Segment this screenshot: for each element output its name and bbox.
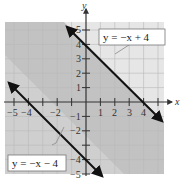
y-tick-label: −5 (70, 169, 81, 180)
coordinate-plane: x y −5 −4 −2 1 2 3 4 5 4 3 2 1 −1 −2 −4 … (0, 0, 187, 188)
x-tick-label: −2 (50, 107, 61, 118)
y-tick-label: 1 (76, 82, 81, 93)
x-axis-label: x (174, 96, 180, 107)
x-tick-label: −5 (7, 107, 18, 118)
x-tick-label: 3 (127, 107, 132, 118)
x-tick-label: 2 (112, 107, 117, 118)
y-tick-label: 2 (76, 68, 81, 79)
y-tick-label: −1 (70, 111, 81, 122)
y-tick-label: −4 (70, 154, 81, 165)
y-tick-label: −2 (70, 125, 81, 136)
lower-line-label: y = −x − 4 (12, 157, 59, 169)
x-tick-label: −4 (21, 107, 32, 118)
x-tick-label: 4 (141, 107, 146, 118)
x-tick-label: 1 (98, 107, 103, 118)
y-tick-label: 3 (76, 53, 81, 64)
y-tick-label: 5 (76, 24, 81, 35)
upper-line-label: y = −x + 4 (103, 31, 150, 43)
y-axis-label: y (81, 0, 87, 11)
